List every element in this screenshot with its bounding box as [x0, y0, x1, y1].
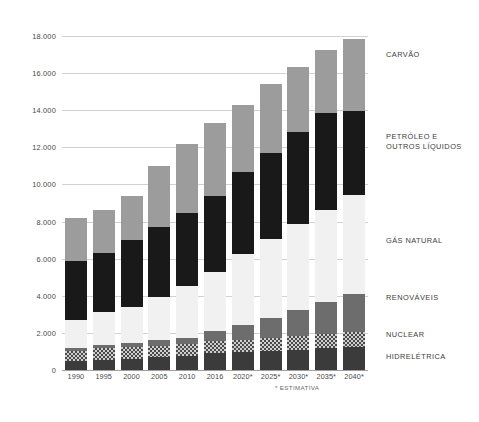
bar-segment-carvao [343, 39, 365, 111]
bar-segment-petroleo [93, 253, 115, 312]
bar-1990[interactable] [65, 218, 87, 370]
bar-segment-petroleo [65, 261, 87, 320]
bar-2040-est[interactable] [343, 39, 365, 370]
bar-segment-hidreletrica [148, 357, 170, 370]
bar-segment-petroleo [176, 213, 198, 286]
bar-segment-gas [260, 239, 282, 318]
y-axis: 18.00016.00014.00012.00010.0008.0006.000… [0, 36, 56, 370]
bar-segment-petroleo [121, 240, 143, 307]
bar-segment-gas [232, 254, 254, 326]
bar-segment-hidreletrica [315, 348, 337, 370]
bar-segment-carvao [148, 166, 170, 227]
bar-segment-hidreletrica [93, 360, 115, 370]
bar-segment-carvao [121, 196, 143, 240]
bar-segment-nuclear [260, 338, 282, 351]
legend-item-label: NUCLEAR [386, 330, 424, 340]
y-axis-tick-label: 8.000 [4, 217, 56, 226]
bar-segment-gas [287, 224, 309, 310]
bar-segment-renovaveis [232, 325, 254, 339]
bar-segment-nuclear [287, 336, 309, 350]
bar-segment-renovaveis [176, 338, 198, 345]
legend-item-renovaveis[interactable]: RENOVÁVEIS [386, 293, 439, 303]
legend-item-hidreletrica[interactable]: HIDRELÉTRICA [386, 352, 446, 362]
y-axis-tick-label: 16.000 [4, 69, 56, 78]
bar-segment-petroleo [148, 227, 170, 298]
bar-segment-renovaveis [148, 340, 170, 345]
bar-segment-gas [343, 195, 365, 294]
bar-segment-carvao [315, 50, 337, 113]
bar-2025-est[interactable] [260, 84, 282, 370]
x-axis-tick-label: 2040* [337, 372, 371, 381]
legend-item-gas[interactable]: GÁS NATURAL [386, 236, 443, 246]
bar-segment-gas [93, 312, 115, 345]
bar-2005[interactable] [148, 166, 170, 370]
legend-item-label: OUTROS LÍQUIDOS [386, 142, 462, 152]
bar-2035-est[interactable] [315, 50, 337, 370]
stacked-bar-chart: 18.00016.00014.00012.00010.0008.0006.000… [0, 0, 479, 422]
legend-item-label: GÁS NATURAL [386, 236, 443, 246]
legend-item-label: PETRÓLEO E [386, 132, 462, 142]
legend-item-label: CARVÃO [386, 50, 420, 60]
legend-item-label: HIDRELÉTRICA [386, 352, 446, 362]
x-axis: 1990199520002005201020162020*2025*2030*2… [62, 372, 368, 386]
legend-item-label: RENOVÁVEIS [386, 293, 439, 303]
bar-segment-renovaveis [287, 310, 309, 336]
y-axis-tick-label: 4.000 [4, 291, 56, 300]
bar-segment-gas [315, 210, 337, 302]
bar-segment-nuclear [121, 347, 143, 359]
y-axis-tick-label: 6.000 [4, 254, 56, 263]
legend-item-petroleo[interactable]: PETRÓLEO EOUTROS LÍQUIDOS [386, 132, 462, 152]
bar-2016[interactable] [204, 123, 226, 370]
bar-segment-petroleo [287, 132, 309, 224]
bar-segment-nuclear [204, 341, 226, 353]
bar-2010[interactable] [176, 144, 198, 370]
legend-item-carvao[interactable]: CARVÃO [386, 50, 420, 60]
bar-segment-carvao [204, 123, 226, 195]
bar-segment-petroleo [315, 113, 337, 209]
bar-segment-petroleo [204, 196, 226, 272]
chart-footnote: * ESTIMATIVA [275, 384, 319, 391]
bar-segment-nuclear [176, 344, 198, 356]
bar-segment-hidreletrica [176, 356, 198, 370]
bar-segment-gas [148, 297, 170, 340]
bar-segment-carvao [93, 210, 115, 253]
y-axis-tick-label: 14.000 [4, 106, 56, 115]
gridline [62, 36, 368, 37]
bar-segment-hidreletrica [65, 361, 87, 370]
axis-baseline [62, 370, 368, 371]
bar-segment-nuclear [65, 351, 87, 361]
bar-segment-petroleo [343, 111, 365, 196]
bar-segment-renovaveis [65, 348, 87, 351]
bar-segment-hidreletrica [287, 350, 309, 370]
bar-segment-nuclear [232, 340, 254, 353]
y-axis-tick-label: 12.000 [4, 143, 56, 152]
bar-segment-gas [176, 286, 198, 338]
bar-segment-carvao [287, 67, 309, 132]
bar-segment-renovaveis [204, 331, 226, 341]
y-axis-tick-label: 2.000 [4, 328, 56, 337]
y-axis-tick-label: 10.000 [4, 180, 56, 189]
bar-segment-gas [121, 307, 143, 343]
legend-item-nuclear[interactable]: NUCLEAR [386, 330, 424, 340]
bar-segment-nuclear [315, 334, 337, 349]
bar-segment-hidreletrica [232, 352, 254, 370]
bar-segment-renovaveis [260, 318, 282, 338]
bar-segment-carvao [65, 218, 87, 261]
bar-segment-petroleo [260, 153, 282, 239]
chart-legend: CARVÃOPETRÓLEO EOUTROS LÍQUIDOSGÁS NATUR… [386, 0, 479, 422]
bar-segment-carvao [260, 84, 282, 153]
bar-segment-hidreletrica [260, 351, 282, 370]
bar-segment-renovaveis [343, 294, 365, 331]
bar-2030-est[interactable] [287, 67, 309, 370]
bar-segment-nuclear [93, 348, 115, 359]
bar-segment-gas [65, 320, 87, 348]
bar-1995[interactable] [93, 210, 115, 370]
bar-2000[interactable] [121, 196, 143, 370]
bar-segment-renovaveis [315, 302, 337, 334]
plot-area [62, 36, 368, 370]
y-axis-tick-label: 18.000 [4, 32, 56, 41]
bar-2020-est[interactable] [232, 105, 254, 370]
y-axis-tick-label: 0 [4, 366, 56, 375]
bar-segment-renovaveis [93, 345, 115, 348]
bar-segment-hidreletrica [343, 347, 365, 370]
